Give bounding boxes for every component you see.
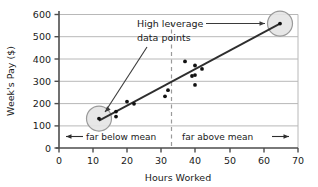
data-point [183, 60, 187, 64]
scatter-plot-figure: 600 500 400 300 200 100 0 0 10 20 30 40 … [0, 0, 318, 187]
data-point [193, 83, 197, 87]
x-tick-label-70: 70 [292, 155, 304, 166]
y-axis-title: Week's Pay ($) [5, 46, 16, 116]
data-point [193, 64, 197, 68]
y-tick-label-200: 200 [33, 98, 51, 109]
region-above-mean-label: far above mean [182, 132, 253, 142]
x-tick-label-60: 60 [258, 155, 270, 166]
y-tick-label-600: 600 [33, 9, 51, 20]
y-tick-label-100: 100 [33, 120, 51, 131]
data-point [125, 100, 129, 104]
data-point [278, 22, 282, 26]
annotation-label-line2: data points [137, 32, 191, 43]
data-point [114, 110, 118, 114]
data-point [97, 117, 101, 121]
y-tick-label-500: 500 [33, 31, 51, 42]
data-point [163, 94, 167, 98]
x-tick-label-20: 20 [121, 155, 133, 166]
data-point [114, 115, 118, 119]
y-tick-label-0: 0 [45, 143, 51, 154]
x-tick-label-10: 10 [87, 155, 99, 166]
data-point [193, 73, 197, 77]
annotation-label-line1: High leverage [137, 18, 204, 29]
x-tick-label-0: 0 [56, 155, 62, 166]
x-axis-title: Hours Worked [145, 172, 211, 183]
y-tick-label-400: 400 [33, 54, 51, 65]
x-tick-label-50: 50 [224, 155, 236, 166]
data-point [200, 67, 204, 71]
x-tick-label-40: 40 [189, 155, 201, 166]
chart-canvas: 600 500 400 300 200 100 0 0 10 20 30 40 … [0, 0, 318, 187]
data-point [166, 88, 170, 92]
data-point [132, 102, 136, 106]
x-tick-label-30: 30 [155, 155, 167, 166]
y-tick-label-300: 300 [33, 76, 51, 87]
region-below-mean-label: far below mean [86, 132, 156, 142]
